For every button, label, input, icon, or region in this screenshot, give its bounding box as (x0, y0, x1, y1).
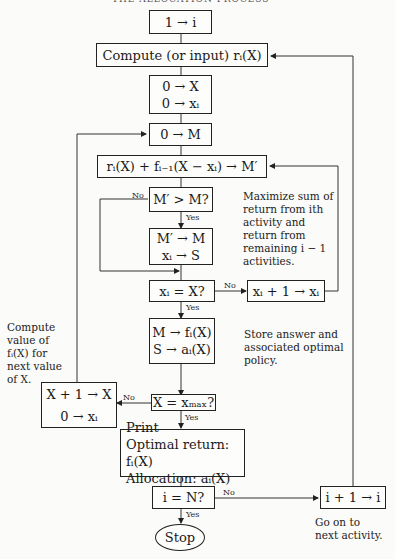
init-i-text: 1 → i (165, 14, 197, 31)
no-label-compare: No (132, 191, 144, 200)
yes-label-compare: Yes (186, 213, 199, 222)
check-i-box: i = N? (152, 486, 215, 509)
print-return: Optimal return: fᵢ(X) (126, 436, 244, 470)
no-label-x: No (123, 393, 135, 402)
next-activity-note: Go on to next activity. (315, 516, 383, 542)
stop-terminal: Stop (155, 524, 205, 551)
compare-box: M′ > M? (149, 187, 213, 212)
inc-X-text: X + 1 → X (46, 386, 111, 403)
print-alloc: Allocation: aᵢ(X) (126, 470, 230, 487)
note-line: value of (7, 334, 62, 347)
init-M-text: 0 → M (160, 126, 201, 143)
inc-i-box: i + 1 → i (320, 486, 386, 509)
maximize-note: Maximize sum of return from ith activity… (243, 190, 333, 268)
inc-x-box: X + 1 → X 0 → xᵢ (41, 382, 117, 428)
inc-xi-box: xᵢ + 1 → xᵢ (247, 280, 325, 302)
note-line: associated optimal (244, 341, 344, 354)
init-m-box: 0 → M (149, 123, 212, 146)
init-i-box: 1 → i (149, 10, 212, 34)
eval-box: rᵢ(X) + fᵢ₋₁(X − xᵢ) → M′ (97, 155, 267, 178)
note-line: return from (243, 229, 333, 242)
check-xi-text: xᵢ = X? (159, 283, 204, 300)
compute-r-box: Compute (or input) rᵢ(X) (96, 43, 268, 67)
print-title: Print (126, 419, 159, 436)
print-box: Print Optimal return: fᵢ(X) Allocation: … (120, 429, 245, 477)
yes-label-xi: Yes (186, 303, 199, 312)
note-line: remaining i − 1 (243, 242, 333, 255)
check-x-box: X = xₘₐₓ? (151, 394, 216, 411)
inc-xi-text: xᵢ + 1 → xᵢ (253, 283, 319, 300)
compute-r-text: Compute (or input) rᵢ(X) (103, 47, 262, 64)
note-line: activities. (243, 255, 333, 268)
note-line: Store answer and (244, 328, 344, 341)
update-S-text: xᵢ → S (162, 247, 200, 264)
note-line: policy. (244, 354, 344, 367)
store-a-text: S → aᵢ(X) (153, 341, 211, 358)
note-line: fᵢ(X) for (7, 347, 62, 360)
note-line: Maximize sum of (243, 190, 333, 203)
note-line: activity and (243, 216, 333, 229)
check-xi-box: xᵢ = X? (149, 280, 215, 302)
yes-label-i: Yes (186, 510, 199, 519)
note-line: return from ith (243, 203, 333, 216)
store-note: Store answer and associated optimal poli… (244, 328, 344, 367)
store-box: M → fᵢ(X) S → aᵢ(X) (149, 318, 215, 364)
note-line: Go on to (315, 516, 383, 529)
no-label-i: No (223, 488, 235, 497)
compute-next-note: Compute value of fᵢ(X) for next value of… (7, 321, 62, 386)
update-M-text: M′ → M (157, 230, 206, 247)
check-i-text: i = N? (163, 489, 205, 506)
update-box: M′ → M xᵢ → S (149, 228, 213, 265)
store-f-text: M → fᵢ(X) (152, 324, 211, 341)
init-x-box: 0 → X 0 → xᵢ (149, 75, 212, 114)
compare-text: M′ > M? (153, 191, 209, 208)
stop-text: Stop (165, 530, 195, 545)
reset-xi-text: 0 → xᵢ (60, 408, 97, 425)
no-label-xi: No (224, 281, 236, 290)
init-X-text: 0 → X (162, 78, 199, 95)
check-X-text: X = xₘₐₓ? (153, 394, 214, 411)
init-xi-text: 0 → xᵢ (162, 95, 199, 112)
yes-label-x: Yes (185, 413, 198, 422)
note-line: Compute (7, 321, 62, 334)
note-line: next activity. (315, 529, 383, 542)
eval-text: rᵢ(X) + fᵢ₋₁(X − xᵢ) → M′ (107, 158, 258, 175)
inc-i-text: i + 1 → i (326, 489, 381, 506)
note-line: next value (7, 360, 62, 373)
